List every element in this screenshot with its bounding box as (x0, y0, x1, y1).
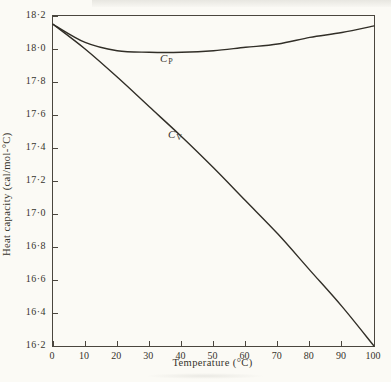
cp-label-subscript: P (168, 57, 173, 66)
y-tick-mark (53, 313, 58, 314)
y-tick-label: 18·0 (12, 41, 46, 55)
y-tick-label: 18·2 (12, 8, 46, 22)
x-tick-mark (374, 341, 375, 346)
x-tick-label: 30 (135, 349, 161, 362)
y-tick-mark (53, 148, 58, 149)
x-tick-mark (53, 341, 54, 346)
y-tick-mark (53, 115, 58, 116)
x-tick-label: 10 (71, 349, 97, 362)
cv-curve-label: CV (168, 128, 182, 142)
x-tick-mark (149, 341, 150, 346)
cp-label-symbol: C (160, 52, 168, 64)
y-tick-mark (53, 82, 58, 83)
y-tick-label: 17·0 (12, 206, 46, 220)
x-tick-label: 20 (103, 349, 129, 362)
figure: Heat capacity (cal/mol-°C) Temperature (… (0, 0, 391, 382)
y-tick-mark (53, 49, 58, 50)
cp-curve-label: CP (160, 52, 173, 66)
x-tick-mark (213, 341, 214, 346)
cv-label-subscript: V (176, 133, 182, 142)
scan-artifact-bottom (145, 373, 265, 379)
x-tick-mark (85, 341, 86, 346)
x-tick-mark (309, 341, 310, 346)
y-tick-mark (53, 346, 58, 347)
x-tick-mark (277, 341, 278, 346)
y-tick-mark (53, 280, 58, 281)
y-tick-label: 17·2 (12, 173, 46, 187)
x-tick-label: 100 (360, 349, 386, 362)
x-tick-label: 80 (296, 349, 322, 362)
y-tick-label: 17·4 (12, 140, 46, 154)
plot-area (52, 15, 375, 347)
y-tick-mark (53, 214, 58, 215)
y-tick-mark (53, 181, 58, 182)
x-tick-label: 40 (167, 349, 193, 362)
x-tick-mark (181, 341, 182, 346)
y-tick-label: 16·8 (12, 239, 46, 253)
scan-artifact-top (92, 0, 391, 7)
x-tick-label: 70 (264, 349, 290, 362)
x-tick-mark (245, 341, 246, 346)
x-tick-mark (341, 341, 342, 346)
x-tick-label: 90 (328, 349, 354, 362)
cp-curve (53, 24, 374, 52)
y-tick-label: 17·8 (12, 74, 46, 88)
x-tick-mark (117, 341, 118, 346)
x-tick-label: 0 (39, 349, 65, 362)
x-tick-label: 60 (232, 349, 258, 362)
curves-svg (53, 16, 374, 346)
cv-curve (53, 24, 374, 346)
y-tick-label: 16·6 (12, 272, 46, 286)
y-tick-label: 17·6 (12, 107, 46, 121)
y-tick-mark (53, 16, 58, 17)
cv-label-symbol: C (168, 128, 176, 140)
x-tick-label: 50 (200, 349, 226, 362)
y-tick-label: 16·4 (12, 305, 46, 319)
y-tick-mark (53, 247, 58, 248)
